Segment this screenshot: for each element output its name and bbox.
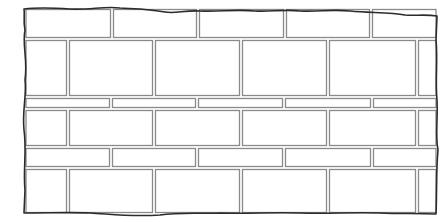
brick (200, 10, 284, 38)
brick (243, 170, 327, 213)
brick (286, 99, 371, 108)
brick (243, 41, 327, 96)
brick-wall-diagram (0, 0, 442, 222)
brick (374, 149, 437, 167)
brick (419, 111, 437, 146)
brick (199, 99, 283, 108)
brick (374, 99, 437, 108)
brick (26, 41, 67, 96)
brick (114, 10, 197, 38)
brick (70, 41, 153, 96)
brick (26, 111, 67, 146)
brick (26, 10, 111, 38)
brick (156, 111, 240, 146)
brick (26, 149, 110, 167)
brick (113, 149, 196, 167)
brick (156, 41, 240, 96)
brick (70, 170, 153, 213)
brick-courses (26, 10, 436, 213)
brick (373, 10, 437, 38)
brick (156, 170, 240, 213)
brick (287, 10, 370, 38)
brick (113, 99, 196, 108)
brick (26, 99, 110, 108)
brick (199, 149, 283, 167)
brick (419, 41, 437, 96)
brick (243, 111, 327, 146)
brick (286, 149, 371, 167)
brick (330, 170, 416, 213)
brick (26, 170, 67, 213)
brick (419, 170, 437, 213)
brick (330, 111, 416, 146)
brick (70, 111, 153, 146)
brick (330, 41, 416, 96)
